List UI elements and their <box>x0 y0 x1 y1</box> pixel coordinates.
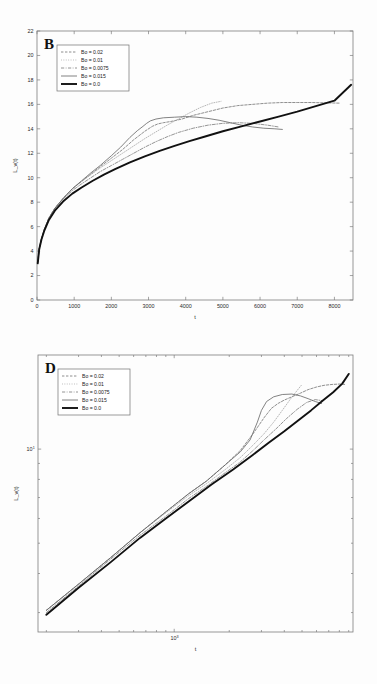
x-tick-label-exponent: 3 <box>177 635 179 639</box>
curve-bo-0-01 <box>38 101 221 262</box>
y-axis: 101 <box>27 446 354 613</box>
legend-label-3: Bo = 0.015 <box>82 397 107 403</box>
chart-svg-B: 0100020003000400050006000700080000246810… <box>0 0 377 342</box>
x-tick-label: 1000 <box>68 303 80 309</box>
chart-svg-D: 103101tL_v(t)DBo = 0.02Bo = 0.01Bo = 0.0… <box>0 342 377 684</box>
curve-bo-0-01 <box>46 384 302 610</box>
y-tick-label: 18 <box>27 77 33 83</box>
legend-label-2: Bo = 0.0075 <box>81 65 109 71</box>
curve-bo-0-02 <box>38 103 340 263</box>
y-axis-label: L_v(t) <box>12 158 18 172</box>
curve-bo-0-0 <box>38 85 351 264</box>
legend-label-4: Bo = 0.0 <box>81 81 100 87</box>
y-tick-label: 6 <box>30 224 33 230</box>
legend-label-1: Bo = 0.01 <box>82 381 104 387</box>
legend-label-3: Bo = 0.015 <box>81 73 106 79</box>
legend: Bo = 0.02Bo = 0.01Bo = 0.0075Bo = 0.015B… <box>57 45 129 91</box>
y-tick-label: 22 <box>27 28 33 34</box>
legend-label-1: Bo = 0.01 <box>81 57 103 63</box>
chart-panel-B: 0100020003000400050006000700080000246810… <box>0 0 377 342</box>
y-tick-label: 4 <box>30 248 33 254</box>
legend-label-0: Bo = 0.02 <box>82 373 104 379</box>
y-tick-label: 10 <box>27 446 33 452</box>
x-tick-label: 2000 <box>105 303 117 309</box>
y-tick-label: 14 <box>27 126 33 132</box>
x-tick-label: 7000 <box>291 303 303 309</box>
panel-letter-D: D <box>45 360 56 376</box>
y-tick-label: 10 <box>27 175 33 181</box>
x-tick-label: 3000 <box>143 303 155 309</box>
curves-group <box>38 85 351 264</box>
y-tick-label: 20 <box>27 52 33 58</box>
y-tick-label: 2 <box>30 272 33 278</box>
x-tick-label: 5000 <box>217 303 229 309</box>
x-tick-label: 6000 <box>254 303 266 309</box>
y-axis-label: L_v(t) <box>13 486 19 500</box>
panel-letter-B: B <box>44 36 54 52</box>
x-tick-label: 8000 <box>328 303 340 309</box>
legend: Bo = 0.02Bo = 0.01Bo = 0.0075Bo = 0.015B… <box>58 369 130 415</box>
x-axis-label: t <box>195 646 197 652</box>
y-tick-label: 0 <box>30 297 33 303</box>
y-tick-label: 8 <box>30 199 33 205</box>
y-tick-label: 16 <box>27 101 33 107</box>
y-tick-label-exponent: 1 <box>33 446 35 450</box>
x-axis-label: t <box>194 314 196 320</box>
chart-panel-D: 103101tL_v(t)DBo = 0.02Bo = 0.01Bo = 0.0… <box>0 342 377 684</box>
legend-label-2: Bo = 0.0075 <box>82 389 110 395</box>
y-tick-label: 12 <box>27 150 33 156</box>
figure-page: 0100020003000400050006000700080000246810… <box>0 0 377 684</box>
x-tick-label: 0 <box>36 303 39 309</box>
x-tick-label: 4000 <box>180 303 192 309</box>
legend-label-0: Bo = 0.02 <box>81 49 103 55</box>
legend-label-4: Bo = 0.0 <box>82 405 101 411</box>
